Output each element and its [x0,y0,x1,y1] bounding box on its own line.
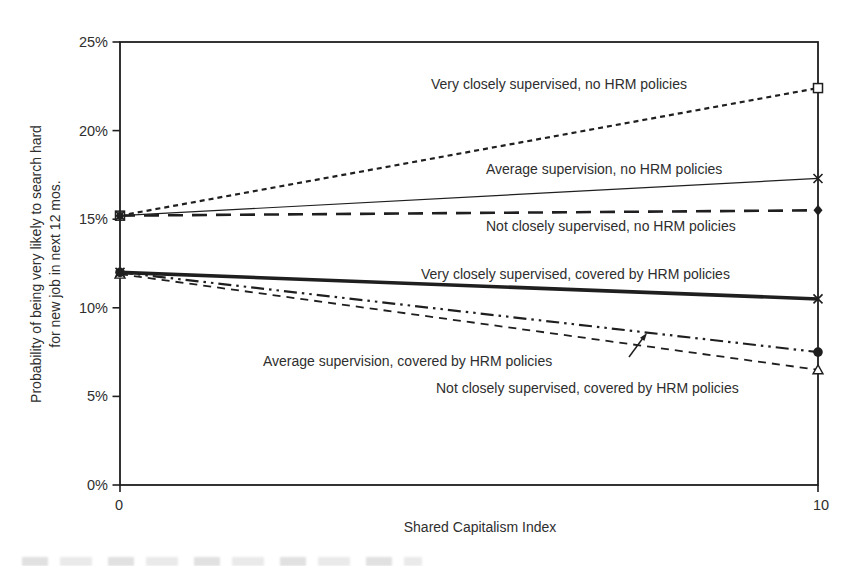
figure-page: 0%5%10%15%20%25%010Very closely supervis… [0,0,858,566]
x-tick-label: 0 [115,497,123,513]
y-tick-label: 0% [87,477,108,493]
y-axis-title-line1: Probability of being very likely to sear… [27,49,46,479]
marker-filled-circle-4 [813,347,823,357]
y-tick-label: 10% [79,300,108,316]
line-chart: 0%5%10%15%20%25%010Very closely supervis… [0,0,858,566]
series-label-4: Average supervision, covered by HRM poli… [263,353,552,369]
annotation-arrow-shaft [629,338,643,357]
series-label-2: Not closely supervised, no HRM policies [486,218,736,234]
y-tick-label: 25% [79,34,108,50]
cut-off-caption-artifact [22,557,422,566]
y-axis-title-line2: for new job in next 12 mos. [46,49,65,479]
series-line-1 [120,178,818,215]
marker-filled-diamond-2 [814,205,823,216]
y-axis-title: Probability of being very likely to sear… [27,49,67,479]
series-line-2 [120,210,818,215]
y-tick-label: 20% [79,123,108,139]
y-tick-label: 5% [87,388,108,404]
marker-open-square-0 [814,84,823,93]
y-tick-label: 15% [79,211,108,227]
series-label-3: Very closely supervised, covered by HRM … [421,266,730,282]
x-tick-label: 10 [813,497,829,513]
x-axis-title: Shared Capitalism Index [330,519,630,535]
plot-border [120,42,818,485]
series-label-5: Not closely supervised, covered by HRM p… [436,380,739,396]
series-label-0: Very closely supervised, no HRM policies [431,76,687,92]
series-label-1: Average supervision, no HRM policies [486,161,722,177]
